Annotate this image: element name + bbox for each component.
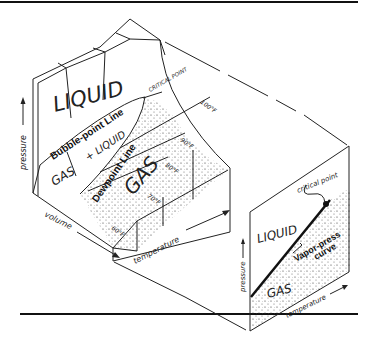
volume-axis-label: volume: [43, 210, 74, 232]
projection-critical-point-label: critical point: [296, 171, 340, 195]
temperature-axis-arrow: [186, 212, 227, 230]
projection-pressure-label: pressure: [239, 261, 247, 293]
projection-liquid-label: LIQUID: [255, 222, 298, 246]
phase-diagram: LIQUID Bubble-point Line CRITICAL POINT …: [0, 0, 369, 345]
critical-point-label: CRITICAL POINT: [148, 66, 189, 93]
critical-point-marker: [323, 201, 329, 207]
pressure-axis-label: pressure: [19, 135, 28, 171]
isotherm-100: 100°F: [199, 98, 218, 114]
